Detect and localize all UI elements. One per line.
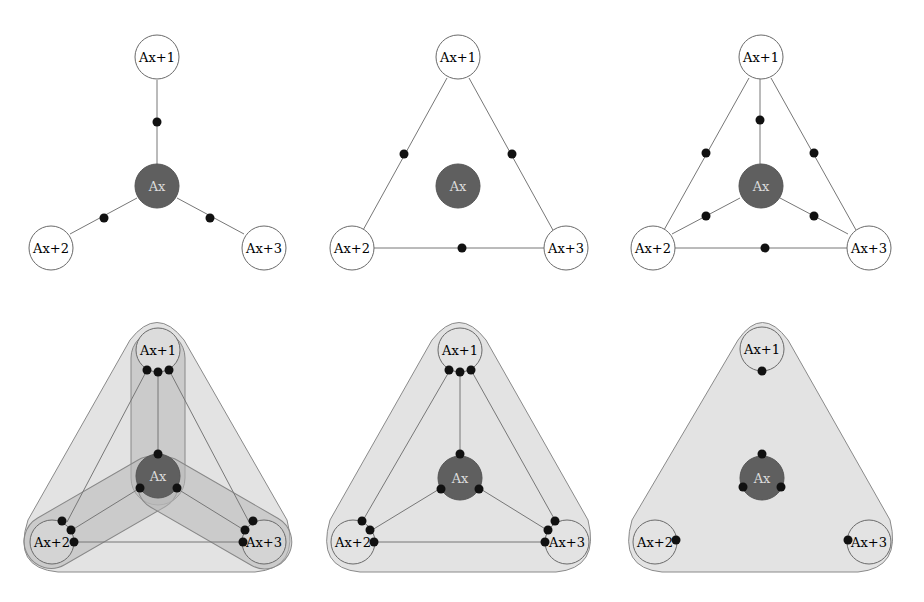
node-ax-plus-1: Ax+1 bbox=[436, 35, 480, 79]
node-ax-plus-1: Ax+1 bbox=[135, 35, 179, 79]
node-ax-plus-2: Ax+2 bbox=[30, 520, 74, 564]
svg-text:Ax: Ax bbox=[148, 179, 166, 194]
edge-dot bbox=[810, 212, 819, 221]
svg-text:Ax+2: Ax+2 bbox=[636, 535, 673, 550]
svg-text:Ax+1: Ax+1 bbox=[441, 343, 478, 358]
panel-top-right: Ax+1 Ax Ax+2 Ax+3 bbox=[631, 35, 891, 270]
panel-bottom-middle: Ax+1 Ax Ax+2 Ax+3 bbox=[327, 323, 591, 573]
node-ax: Ax bbox=[436, 164, 480, 208]
edge-dot bbox=[702, 149, 711, 158]
svg-text:Ax+2: Ax+2 bbox=[32, 241, 69, 256]
node-ax-plus-2: Ax+2 bbox=[330, 226, 374, 270]
node-ax-plus-2: Ax+2 bbox=[631, 226, 675, 270]
svg-text:Ax+1: Ax+1 bbox=[439, 50, 476, 65]
node-ax-plus-3: Ax+3 bbox=[242, 226, 286, 270]
node-ax-plus-1: Ax+1 bbox=[739, 35, 783, 79]
node-ax-plus-1: Ax+1 bbox=[740, 327, 784, 371]
svg-text:Ax+1: Ax+1 bbox=[138, 50, 175, 65]
edge-dot bbox=[206, 214, 215, 223]
svg-text:Ax+3: Ax+3 bbox=[245, 241, 282, 256]
svg-text:Ax+2: Ax+2 bbox=[334, 535, 371, 550]
node-ax-plus-3: Ax+3 bbox=[847, 520, 891, 564]
node-ax-plus-1: Ax+1 bbox=[438, 328, 482, 372]
panel-top-middle: Ax+1 Ax Ax+2 Ax+3 bbox=[330, 35, 588, 270]
node-ax: Ax bbox=[438, 456, 482, 500]
node-ax-plus-1: Ax+1 bbox=[136, 328, 180, 372]
diagram-canvas: Ax+1 Ax Ax+2 Ax+3 Ax+1 Ax bbox=[0, 0, 924, 602]
edge-dot bbox=[761, 244, 770, 253]
svg-text:Ax+2: Ax+2 bbox=[33, 535, 70, 550]
svg-text:Ax+2: Ax+2 bbox=[333, 241, 370, 256]
svg-text:Ax: Ax bbox=[149, 469, 167, 484]
edge-dot bbox=[756, 116, 765, 125]
svg-text:Ax+1: Ax+1 bbox=[742, 50, 779, 65]
svg-text:Ax+3: Ax+3 bbox=[547, 241, 584, 256]
svg-text:Ax+1: Ax+1 bbox=[139, 343, 176, 358]
svg-text:Ax: Ax bbox=[449, 179, 467, 194]
svg-text:Ax+2: Ax+2 bbox=[634, 241, 671, 256]
node-ax: Ax bbox=[740, 456, 784, 500]
panel-bottom-left: Ax+1 Ax Ax+2 Ax+3 bbox=[14, 323, 301, 579]
panel-bottom-right: Ax+1 Ax Ax+2 Ax+3 bbox=[629, 323, 893, 573]
node-ax-plus-3: Ax+3 bbox=[544, 226, 588, 270]
edge-dot bbox=[508, 150, 517, 159]
edge-dot bbox=[702, 212, 711, 221]
node-ax-plus-3: Ax+3 bbox=[847, 226, 891, 270]
node-ax-plus-2: Ax+2 bbox=[633, 520, 677, 564]
svg-text:Ax: Ax bbox=[753, 471, 771, 486]
edge-dot bbox=[400, 150, 409, 159]
svg-text:Ax: Ax bbox=[752, 179, 770, 194]
svg-text:Ax+3: Ax+3 bbox=[850, 241, 887, 256]
node-ax-plus-3: Ax+3 bbox=[545, 520, 589, 564]
svg-text:Ax+3: Ax+3 bbox=[245, 535, 282, 550]
node-ax: Ax bbox=[135, 164, 179, 208]
node-ax-plus-2: Ax+2 bbox=[29, 226, 73, 270]
svg-text:Ax+1: Ax+1 bbox=[743, 342, 780, 357]
node-ax: Ax bbox=[739, 164, 783, 208]
edge-dot bbox=[810, 149, 819, 158]
edge-dot bbox=[100, 214, 109, 223]
svg-text:Ax+3: Ax+3 bbox=[850, 535, 887, 550]
edge-dot bbox=[458, 244, 467, 253]
edge-dot bbox=[153, 118, 162, 127]
svg-text:Ax+3: Ax+3 bbox=[548, 535, 585, 550]
svg-text:Ax: Ax bbox=[451, 471, 469, 486]
node-ax-plus-3: Ax+3 bbox=[242, 520, 286, 564]
panel-top-left: Ax+1 Ax Ax+2 Ax+3 bbox=[29, 35, 286, 270]
